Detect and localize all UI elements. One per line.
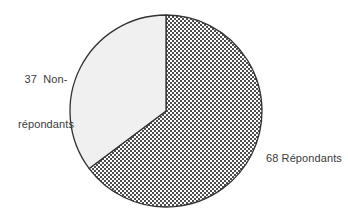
pie-chart-figure: 37 Non- répondants 68 Répondants xyxy=(0,0,348,218)
pie-label-non-repondants-line2: répondants xyxy=(13,117,79,132)
pie-label-repondants: 68 Répondants xyxy=(266,151,342,166)
pie-label-non-repondants: 37 Non- répondants xyxy=(13,42,79,162)
pie-label-non-repondants-line1: 37 Non- xyxy=(13,72,79,87)
